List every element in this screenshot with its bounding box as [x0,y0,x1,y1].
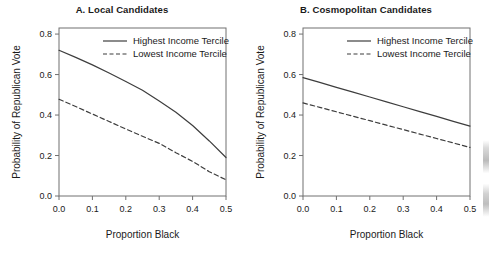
series-line-lowest-income-tercile [303,103,470,148]
y-tick-label: 0.2 [39,151,52,161]
panel-b: B. Cosmopolitan Candidates0.00.20.40.60.… [244,0,488,255]
plot-area: 0.00.20.40.60.80.00.10.20.30.40.5Proport… [0,0,244,255]
legend-label-2: Lowest Income Tercile [133,48,227,59]
y-tick-label: 0.0 [39,191,52,201]
y-axis-title: Probability of Republican Vote [11,45,22,179]
x-tick-label: 0.0 [53,204,66,214]
legend-label-2: Lowest Income Tercile [377,48,471,59]
x-axis-title: Proportion Black [350,229,424,240]
series-line-highest-income-tercile [59,50,226,157]
x-axis-title: Proportion Black [106,229,180,240]
y-tick-label: 0.0 [283,191,296,201]
y-tick-label: 0.2 [283,151,296,161]
x-tick-label: 0.2 [120,204,133,214]
series-line-lowest-income-tercile [59,99,226,180]
x-tick-label: 0.3 [153,204,166,214]
x-tick-label: 0.3 [397,204,410,214]
x-tick-label: 0.5 [464,204,477,214]
y-tick-label: 0.4 [39,110,52,120]
x-tick-label: 0.2 [364,204,377,214]
y-axis-title: Probability of Republican Vote [255,45,266,179]
x-tick-label: 0.1 [330,204,343,214]
y-tick-label: 0.8 [283,29,296,39]
x-tick-label: 0.0 [297,204,310,214]
figure-two-panel-line-chart: A. Local Candidates0.00.20.40.60.80.00.1… [0,0,489,255]
y-tick-label: 0.6 [39,70,52,80]
y-tick-label: 0.4 [283,110,296,120]
series-line-highest-income-tercile [303,78,470,127]
x-tick-label: 0.4 [430,204,443,214]
x-tick-label: 0.1 [86,204,99,214]
plot-area: 0.00.20.40.60.80.00.10.20.30.40.5Proport… [244,0,488,255]
panel-a: A. Local Candidates0.00.20.40.60.80.00.1… [0,0,244,255]
y-tick-label: 0.6 [283,70,296,80]
x-tick-label: 0.4 [186,204,199,214]
x-tick-label: 0.5 [220,204,233,214]
legend-label-1: Highest Income Tercile [377,35,473,46]
legend-label-1: Highest Income Tercile [133,35,229,46]
y-tick-label: 0.8 [39,29,52,39]
